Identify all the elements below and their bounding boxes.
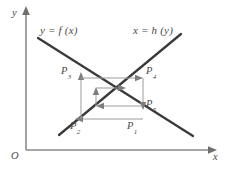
point-label-p4-sub: 4	[153, 73, 157, 81]
point-label-p2-base: P	[70, 120, 76, 131]
diagram-canvas	[0, 0, 229, 173]
decreasing-curve-label: y = f (x)	[40, 25, 78, 36]
y-axis-label: y	[12, 8, 17, 19]
point-label-p4: P4	[146, 66, 156, 79]
point-label-p2: P2	[70, 121, 80, 134]
point-label-p3-base: P	[61, 65, 67, 76]
x-axis-label: x	[213, 152, 218, 163]
point-label-p3-sub: 3	[68, 73, 72, 81]
x-axis-label-text: x	[213, 151, 218, 162]
point-label-p5-base: P	[146, 98, 152, 109]
point-label-p2-sub: 2	[77, 128, 81, 136]
point-label-p1-sub: 1	[134, 128, 138, 136]
point-label-p4-base: P	[146, 65, 152, 76]
increasing-curve-label: x = h (y)	[133, 25, 173, 36]
point-label-p1-base: P	[127, 120, 133, 131]
point-label-p5-sub: 5	[153, 106, 157, 114]
point-label-p3: P3	[61, 66, 71, 79]
point-label-p1: P1	[127, 121, 137, 134]
point-label-p5: P5	[146, 99, 156, 112]
cobweb-path-outer	[75, 72, 146, 122]
x-axis	[26, 146, 217, 154]
decreasing-curve-label-text: y = f (x)	[40, 24, 78, 36]
cobweb-diagram-figure: y = f (x) x = h (y) P3 P4 P5 P2 P1 y x O	[0, 0, 229, 173]
origin-label: O	[11, 151, 19, 162]
origin-label-text: O	[11, 150, 19, 161]
y-axis-label-text: y	[12, 7, 17, 18]
increasing-curve-label-text: x = h (y)	[133, 24, 173, 36]
y-axis	[22, 6, 30, 150]
